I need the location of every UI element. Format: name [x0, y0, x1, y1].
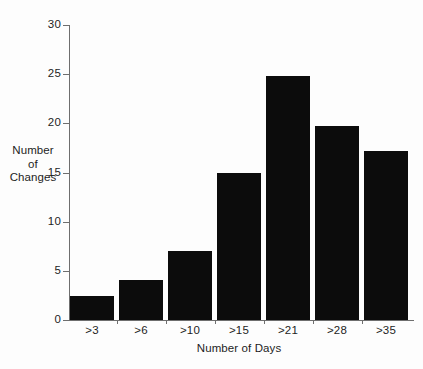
plot-area — [70, 25, 408, 320]
x-tick-label: >28 — [315, 325, 359, 337]
bar — [364, 151, 408, 320]
x-axis-title: Number of Days — [70, 342, 408, 354]
y-tick-label-wrap: 10 — [0, 216, 70, 228]
x-tick-mark — [362, 320, 363, 324]
y-tick-label-wrap: 20 — [0, 117, 70, 129]
bar — [168, 251, 212, 320]
y-tick-label: 25 — [8, 68, 70, 80]
x-tick-label: >10 — [168, 325, 212, 337]
y-tick-label-wrap: 15 — [0, 167, 70, 179]
bar — [70, 296, 114, 320]
y-tick-label: 10 — [8, 216, 70, 228]
bar-chart-figure: Number of Changes 051015202530 >3>6>10>1… — [0, 0, 423, 369]
x-tick-label: >35 — [364, 325, 408, 337]
y-tick-label: 15 — [8, 167, 70, 179]
y-axis-title-line-1: Number — [4, 144, 62, 158]
x-tick-mark — [264, 320, 265, 324]
x-tick-mark — [117, 320, 118, 324]
x-tick-mark — [166, 320, 167, 324]
y-tick-label: 0 — [8, 314, 70, 326]
x-tick-label: >21 — [266, 325, 310, 337]
y-tick-label-wrap: 0 — [0, 314, 70, 326]
bar — [266, 76, 310, 320]
x-tick-label: >6 — [119, 325, 163, 337]
x-tick-label: >15 — [217, 325, 261, 337]
bar — [119, 280, 163, 320]
x-tick-mark — [215, 320, 216, 324]
y-tick-label: 20 — [8, 117, 70, 129]
y-tick-label-wrap: 25 — [0, 68, 70, 80]
bar — [217, 173, 261, 320]
y-tick-label-wrap: 5 — [0, 265, 70, 277]
y-tick-label: 30 — [8, 19, 70, 31]
x-tick-mark — [313, 320, 314, 324]
bar — [315, 126, 359, 320]
y-tick-label-wrap: 30 — [0, 19, 70, 31]
x-tick-label: >3 — [70, 325, 114, 337]
y-tick-label: 5 — [8, 265, 70, 277]
